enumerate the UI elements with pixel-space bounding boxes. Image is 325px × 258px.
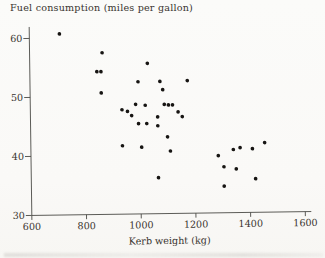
data-point: [222, 165, 226, 169]
x-tick-label: 1400: [238, 218, 263, 229]
data-point: [99, 70, 103, 74]
data-point: [180, 115, 184, 119]
scan-artifact: [4, 253, 323, 257]
data-point: [100, 51, 104, 55]
data-point: [137, 122, 141, 126]
data-point: [156, 124, 160, 128]
data-point: [161, 88, 165, 92]
data-point: [166, 135, 170, 139]
scatter-plot: 600800100012001400160030405060Kerb weigh…: [0, 0, 325, 258]
data-point: [169, 149, 173, 153]
data-point: [136, 80, 140, 84]
x-tick-label: 800: [77, 220, 95, 231]
y-tick-label: 30: [13, 210, 25, 221]
data-point: [176, 110, 180, 114]
data-point: [130, 114, 134, 118]
x-tick-label: 1000: [129, 219, 154, 230]
data-point: [126, 110, 130, 114]
data-point: [171, 103, 175, 107]
data-point: [167, 103, 171, 107]
axis-lines: [29, 23, 311, 215]
data-point: [254, 177, 258, 181]
data-point: [134, 102, 138, 106]
data-point: [234, 167, 238, 171]
data-point: [145, 122, 149, 126]
data-point: [143, 103, 147, 107]
data-point: [121, 144, 125, 148]
data-point: [185, 79, 189, 83]
x-tick-label: 1200: [184, 218, 209, 229]
data-point: [157, 176, 161, 180]
data-point: [222, 184, 226, 188]
data-point: [95, 70, 99, 74]
data-point: [263, 141, 267, 145]
x-tick-label: 600: [23, 221, 41, 232]
scanned-chart-page: Fuel consumption (miles per gallon) 6008…: [0, 0, 325, 258]
y-tick-label: 50: [11, 92, 23, 103]
data-point: [162, 103, 166, 107]
data-point: [140, 145, 144, 149]
data-point: [251, 147, 255, 151]
data-point: [216, 154, 220, 158]
data-point: [231, 148, 235, 152]
y-tick-label: 40: [12, 151, 24, 162]
data-point: [145, 61, 149, 65]
x-axis-label: Kerb weight (kg): [129, 234, 211, 246]
data-point: [158, 80, 162, 84]
data-point: [58, 32, 62, 36]
data-point: [156, 115, 160, 119]
data-point: [120, 108, 124, 112]
data-point: [238, 146, 242, 150]
data-point: [99, 91, 103, 95]
x-tick-label: 1600: [293, 217, 318, 228]
y-tick-label: 60: [10, 33, 22, 44]
